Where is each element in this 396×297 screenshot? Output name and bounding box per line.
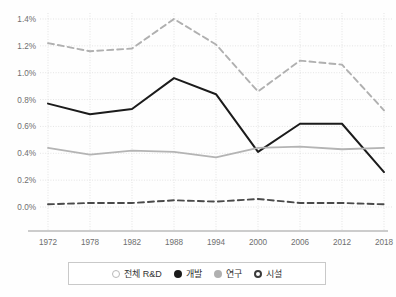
y-tick-label: 0.0% xyxy=(17,203,36,212)
legend-item-development[interactable]: 개발 xyxy=(174,267,202,280)
y-tick-label: 0.2% xyxy=(17,176,36,185)
x-tick-label: 1994 xyxy=(207,238,226,247)
legend-item-total-rd[interactable]: 전체 R&D xyxy=(112,267,162,280)
legend-item-facility[interactable]: 시설 xyxy=(254,267,282,280)
y-axis-tick-labels: 0.0%0.2%0.4%0.6%0.8%1.0%1.2%1.4% xyxy=(17,15,36,212)
chart-container: 0.0%0.2%0.4%0.6%0.8%1.0%1.2%1.4% 1972197… xyxy=(0,0,396,297)
y-tick-label: 0.6% xyxy=(17,122,36,131)
x-tick-label: 2006 xyxy=(291,238,310,247)
series-lines xyxy=(48,19,384,204)
x-tick-label: 1972 xyxy=(39,238,58,247)
series-line-연구 xyxy=(48,147,384,158)
legend-item-research[interactable]: 연구 xyxy=(214,267,242,280)
y-tick-label: 1.2% xyxy=(17,42,36,51)
x-tick-label: 1978 xyxy=(81,238,100,247)
x-tick-label: 2018 xyxy=(375,238,394,247)
chart-legend: 전체 R&D 개발 연구 시설 xyxy=(68,262,326,285)
y-tick-label: 0.4% xyxy=(17,149,36,158)
legend-label-research: 연구 xyxy=(226,267,242,280)
y-tick-label: 0.8% xyxy=(17,96,36,105)
y-tick-label: 1.0% xyxy=(17,69,36,78)
x-axis-tick-labels: 197219781982198819942000200620122018 xyxy=(39,238,394,247)
y-tick-label: 1.4% xyxy=(17,15,36,24)
x-tick-label: 2012 xyxy=(333,238,352,247)
legend-label-development: 개발 xyxy=(186,267,202,280)
gray-circle-icon xyxy=(214,270,222,278)
x-tick-label: 2000 xyxy=(249,238,268,247)
legend-label-total-rd: 전체 R&D xyxy=(124,267,162,280)
line-chart-plot: 0.0%0.2%0.4%0.6%0.8%1.0%1.2%1.4% 1972197… xyxy=(0,0,396,297)
x-tick-label: 1982 xyxy=(123,238,142,247)
filled-circle-icon xyxy=(174,270,182,278)
legend-label-facility: 시설 xyxy=(266,267,282,280)
x-tick-label: 1988 xyxy=(165,238,184,247)
open-circle-icon xyxy=(112,270,120,278)
bold-open-circle-icon xyxy=(254,270,262,278)
